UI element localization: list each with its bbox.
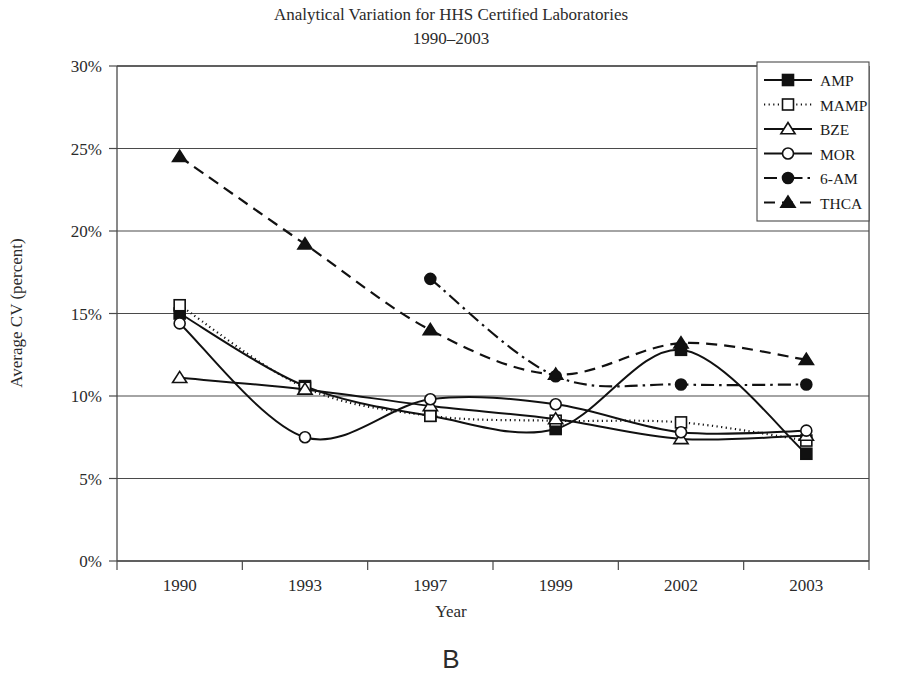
x-tick-label: 2003 (789, 576, 823, 595)
legend-marker-amp (783, 75, 794, 86)
legend-label-6-am: 6-AM (820, 170, 858, 187)
legend-label-mor: MOR (820, 146, 856, 163)
series-line-bze (180, 378, 807, 440)
x-axis-ticks: 199019931997199920022003 (117, 561, 869, 595)
y-tick-label: 25% (71, 140, 102, 159)
y-tick-label: 10% (71, 387, 102, 406)
datapoint-mor (801, 425, 812, 436)
legend-label-amp: AMP (820, 72, 854, 89)
datapoint-thca (674, 337, 688, 348)
figure-panel-b: Analytical Variation for HHS Certified L… (0, 0, 903, 679)
datapoint-bze (173, 371, 187, 382)
legend-label-thca: THCA (820, 195, 863, 212)
series-mor (174, 318, 812, 443)
datapoint-thca (298, 238, 312, 249)
x-tick-label: 1999 (539, 576, 573, 595)
series-line-6-am (430, 279, 806, 387)
x-tick-label: 1997 (413, 576, 448, 595)
datapoint-6-am (425, 273, 436, 284)
datapoint-thca (423, 324, 437, 335)
series-mamp (174, 300, 812, 446)
chart-titles: Analytical Variation for HHS Certified L… (274, 5, 628, 48)
series-line-thca (180, 157, 807, 375)
datapoint-mor (550, 399, 561, 410)
series-layer (173, 150, 814, 459)
series-thca (173, 150, 814, 379)
series-bze (173, 371, 814, 443)
y-tick-label: 30% (71, 57, 102, 76)
legend-marker-6-am (783, 173, 794, 184)
legend-label-mamp: MAMP (820, 97, 867, 114)
chart-subtitle: 1990–2003 (413, 29, 490, 48)
series-amp (174, 308, 812, 459)
datapoint-mor (174, 318, 185, 329)
gridlines (117, 66, 869, 561)
x-tick-label: 1993 (288, 576, 322, 595)
chart-title: Analytical Variation for HHS Certified L… (274, 5, 628, 24)
y-tick-label: 0% (79, 552, 102, 571)
datapoint-amp (801, 448, 812, 459)
y-axis-title: Average CV (percent) (7, 238, 26, 387)
y-tick-label: 15% (71, 305, 102, 324)
y-tick-label: 20% (71, 222, 102, 241)
datapoint-mor (300, 432, 311, 443)
legend-label-bze: BZE (820, 121, 849, 138)
x-axis-title: Year (435, 602, 467, 621)
datapoint-mor (676, 427, 687, 438)
analytical-variation-line-chart: Analytical Variation for HHS Certified L… (0, 0, 903, 679)
datapoint-6-am (801, 379, 812, 390)
y-axis-ticks: 0%5%10%15%20%25%30% (71, 57, 117, 571)
chart-legend: AMPMAMPBZEMOR6-AMTHCA (757, 62, 869, 221)
datapoint-thca (173, 150, 187, 161)
legend-marker-mor (783, 148, 794, 159)
x-tick-label: 2002 (664, 576, 698, 595)
series-6-am (425, 273, 812, 390)
datapoint-mor (425, 394, 436, 405)
series-line-mor (180, 323, 807, 439)
datapoint-6-am (676, 379, 687, 390)
datapoint-mamp (425, 410, 436, 421)
y-tick-label: 5% (79, 470, 102, 489)
datapoint-mamp (174, 300, 185, 311)
panel-label: B (442, 644, 459, 674)
x-tick-label: 1990 (163, 576, 197, 595)
legend-marker-mamp (783, 99, 794, 110)
